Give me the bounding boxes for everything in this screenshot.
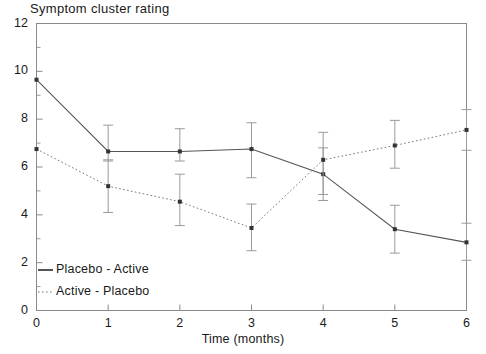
- x-tick-label: 5: [385, 316, 405, 330]
- y-tick-label: 2: [2, 255, 28, 269]
- data-point-marker: [465, 128, 469, 132]
- data-point-marker: [178, 200, 182, 204]
- data-point-marker: [250, 226, 254, 230]
- y-tick-label: 6: [2, 159, 28, 173]
- chart-container: Symptom cluster rating 024681012 0123456…: [0, 0, 486, 354]
- x-tick-label: 2: [170, 316, 190, 330]
- x-tick-label: 0: [27, 316, 47, 330]
- data-point-marker: [393, 227, 397, 231]
- data-point-marker: [321, 158, 325, 162]
- x-tick-label: 3: [242, 316, 262, 330]
- x-axis-title: Time (months): [0, 332, 486, 346]
- data-point-marker: [35, 147, 39, 151]
- x-tick-label: 6: [457, 316, 477, 330]
- data-point-marker: [178, 149, 182, 153]
- legend-item-placebo-active-label: Placebo - Active: [56, 262, 149, 276]
- y-tick-label: 4: [2, 207, 28, 221]
- y-tick-label: 8: [2, 111, 28, 125]
- data-point-marker: [106, 149, 110, 153]
- y-tick-label: 10: [2, 63, 28, 77]
- x-tick-label: 4: [313, 316, 333, 330]
- data-point-marker: [393, 143, 397, 147]
- legend-item-active-placebo-label: Active - Placebo: [56, 284, 150, 298]
- legend-line-samples: [38, 270, 53, 292]
- chart-plot-area: [0, 0, 486, 354]
- data-point-marker: [35, 78, 39, 82]
- y-tick-label: 12: [2, 16, 28, 30]
- x-tick-label: 1: [98, 316, 118, 330]
- data-point-marker: [465, 240, 469, 244]
- chart-title: Symptom cluster rating: [30, 1, 170, 16]
- data-point-marker: [106, 184, 110, 188]
- data-series-group: [35, 78, 472, 261]
- y-tick-label: 0: [2, 303, 28, 317]
- data-point-marker: [250, 147, 254, 151]
